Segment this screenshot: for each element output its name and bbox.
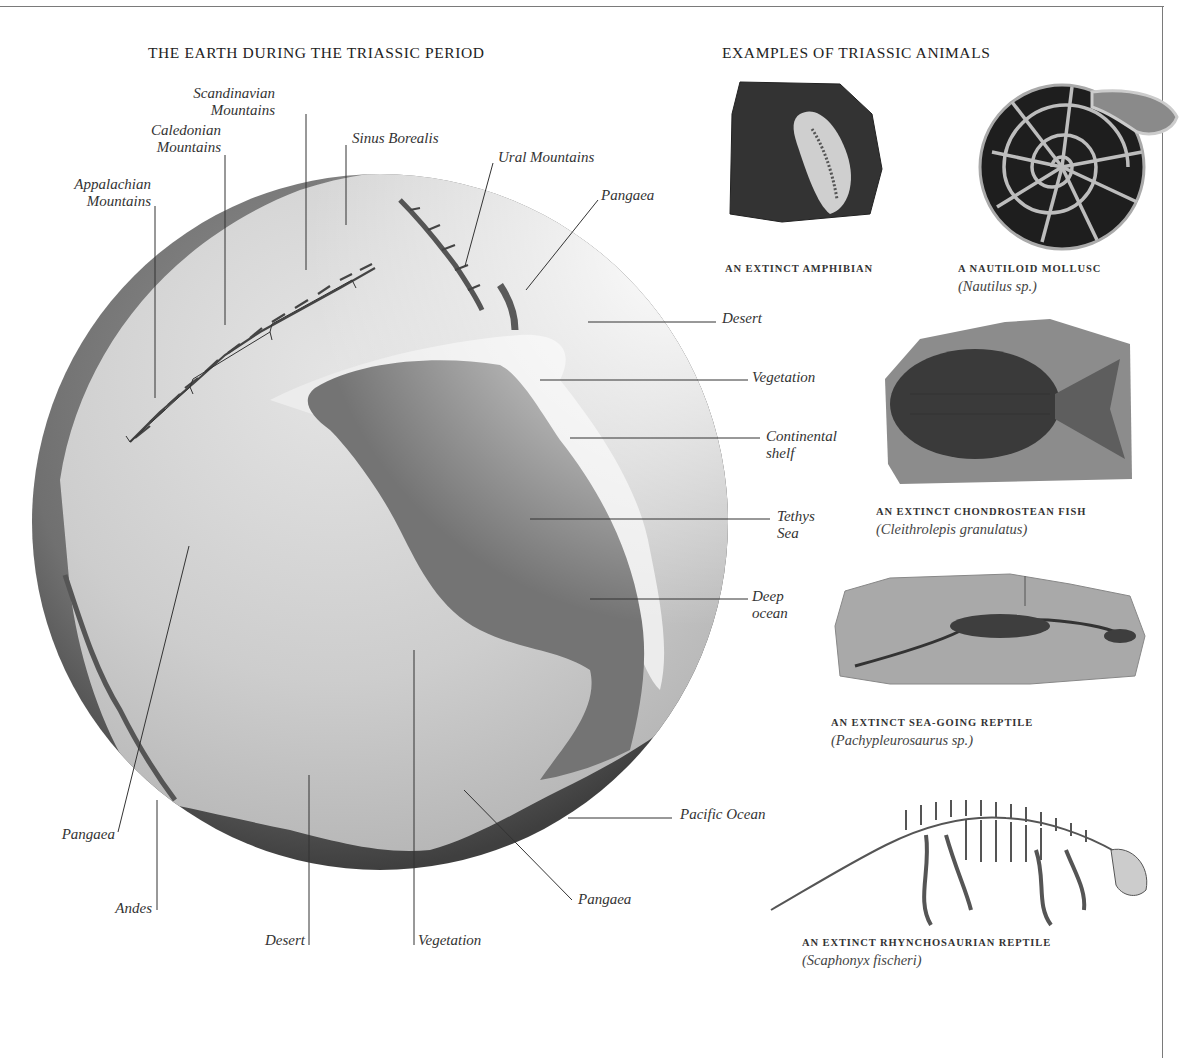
label-desert-south: Desert: [230, 932, 305, 949]
caption-amphibian: AN EXTINCT AMPHIBIAN: [725, 263, 873, 274]
caption-rhynchosaur: AN EXTINCT RHYNCHOSAURIAN REPTILE: [802, 937, 1051, 948]
label-desert-east: Desert: [722, 310, 762, 327]
label-line: ocean: [752, 605, 788, 622]
label-line: Tethys: [777, 508, 815, 525]
label-line: Mountains: [45, 193, 151, 210]
label-vegetation-east: Vegetation: [752, 369, 815, 386]
nautilus-shell-image: [972, 62, 1182, 252]
label-continental-shelf: Continental shelf: [766, 428, 837, 462]
label-pangaea-se: Pangaea: [578, 891, 631, 908]
amphibian-fossil-image: [722, 74, 902, 234]
rhynchosaur-skeleton-image: [766, 790, 1156, 930]
caption-nautilus: A NAUTILOID MOLLUSC: [958, 263, 1101, 274]
label-line: Scandinavian: [185, 85, 275, 102]
label-line: shelf: [766, 445, 837, 462]
caption-fish: AN EXTINCT CHONDROSTEAN FISH: [876, 506, 1086, 517]
label-sinus-borealis: Sinus Borealis: [352, 130, 439, 147]
label-vegetation-south: Vegetation: [418, 932, 481, 949]
label-line: Appalachian: [45, 176, 151, 193]
scientific-name-nautilus: (Nautilus sp.): [958, 278, 1037, 295]
label-tethys-sea: Tethys Sea: [777, 508, 815, 542]
caption-sea-reptile: AN EXTINCT SEA-GOING REPTILE: [831, 717, 1033, 728]
sea-reptile-fossil-image: [830, 566, 1150, 696]
label-ural-mountains: Ural Mountains: [498, 149, 594, 166]
fish-fossil-image: [880, 314, 1140, 494]
label-line: Sea: [777, 525, 815, 542]
label-line: Mountains: [110, 139, 221, 156]
label-line: Caledonian: [110, 122, 221, 139]
label-pacific-ocean: Pacific Ocean: [680, 806, 765, 823]
label-andes: Andes: [90, 900, 152, 917]
label-line: Mountains: [185, 102, 275, 119]
label-appalachian-mountains: Appalachian Mountains: [45, 176, 151, 210]
label-line: Continental: [766, 428, 837, 445]
scientific-name-rhynchosaur: (Scaphonyx fischeri): [802, 952, 922, 969]
label-caledonian-mountains: Caledonian Mountains: [110, 122, 221, 156]
scientific-name-sea-reptile: (Pachypleurosaurus sp.): [831, 732, 973, 749]
label-line: Deep: [752, 588, 788, 605]
animals-section-title: EXAMPLES OF TRIASSIC ANIMALS: [722, 44, 990, 62]
label-scandinavian-mountains: Scandinavian Mountains: [185, 85, 275, 119]
scientific-name-fish: (Cleithrolepis granulatus): [876, 521, 1027, 538]
label-deep-ocean: Deep ocean: [752, 588, 788, 622]
label-pangaea-ne: Pangaea: [601, 187, 654, 204]
label-pangaea-sw: Pangaea: [30, 826, 115, 843]
